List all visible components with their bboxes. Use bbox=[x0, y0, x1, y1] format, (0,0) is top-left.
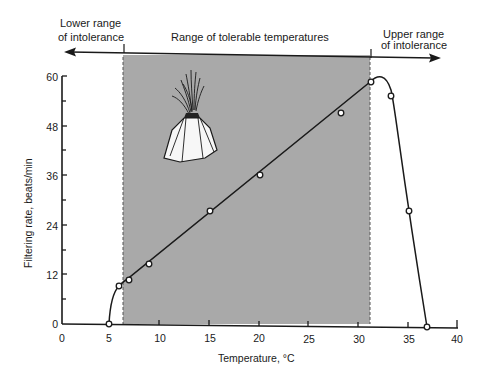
data-point bbox=[338, 110, 344, 116]
data-point bbox=[106, 321, 112, 327]
data-point bbox=[207, 208, 213, 214]
data-point bbox=[126, 277, 132, 283]
y-axis-title: Filtering rate, beats/min bbox=[22, 158, 34, 268]
y-tick-24: 24 bbox=[46, 220, 58, 232]
x-tick-5: 5 bbox=[106, 332, 112, 344]
y-tick-0: 0 bbox=[52, 318, 58, 330]
y-tick-48: 48 bbox=[46, 121, 58, 133]
data-point bbox=[146, 261, 152, 267]
x-tick-25: 25 bbox=[303, 333, 315, 345]
y-tick-12: 12 bbox=[46, 269, 58, 281]
data-point bbox=[406, 208, 412, 214]
lower-range-label-line2: of intolerance bbox=[58, 31, 124, 43]
x-tick-30: 30 bbox=[353, 333, 365, 345]
data-point bbox=[368, 79, 374, 85]
data-point bbox=[424, 324, 430, 330]
y-tick-60: 60 bbox=[46, 71, 58, 83]
y-tick-36: 36 bbox=[46, 170, 58, 182]
upper-range-label-line2: of intolerance bbox=[381, 39, 447, 51]
tolerable-range-label: Range of tolerable temperatures bbox=[171, 31, 329, 43]
x-tick-0: 0 bbox=[59, 332, 65, 344]
data-point bbox=[388, 93, 394, 99]
x-tick-20: 20 bbox=[253, 332, 265, 344]
data-point bbox=[116, 283, 122, 289]
x-axis-title: Temperature, °C bbox=[218, 352, 295, 364]
data-point bbox=[257, 172, 263, 178]
x-tick-40: 40 bbox=[451, 333, 463, 345]
y-axis: 0 12 24 36 48 60 bbox=[46, 71, 67, 330]
chart: Lower range of intolerance Range of tole… bbox=[0, 0, 482, 374]
x-tick-15: 15 bbox=[204, 332, 216, 344]
tolerable-range-shading bbox=[123, 55, 370, 324]
x-tick-35: 35 bbox=[403, 333, 415, 345]
x-tick-10: 10 bbox=[154, 332, 166, 344]
lower-range-label-line1: Lower range bbox=[60, 17, 121, 29]
